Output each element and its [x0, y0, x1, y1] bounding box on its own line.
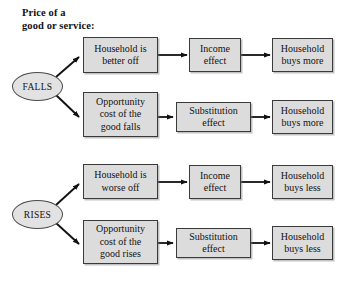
arrow-rises-to-opportunity-cost-rises	[56, 223, 79, 244]
node-row3-stage1: Household is worse off	[83, 164, 158, 199]
node-row3-stage2: Income effect	[189, 165, 241, 199]
node-row2-stage2: Substitution effect	[176, 102, 251, 132]
node-row3-stage3: Household buys less	[272, 165, 333, 199]
node-row1-stage3: Household buys more	[272, 38, 333, 72]
node-row2-stage3: Household buys more	[272, 100, 333, 134]
node-row1-stage2: Income effect	[189, 38, 241, 72]
node-row4-stage1: Opportunity cost of the good rises	[83, 220, 158, 264]
node-row4-stage3: Household buys less	[272, 226, 333, 260]
node-row2-stage1: Opportunity cost of the good falls	[83, 92, 158, 137]
diagram-canvas: Price of a good or service: FALLS RISES …	[0, 0, 354, 284]
arrow-falls-to-household-better-off	[56, 57, 79, 77]
node-row1-stage1: Household is better off	[83, 37, 158, 73]
node-row4-stage2: Substitution effect	[176, 228, 251, 258]
arrow-falls-to-opportunity-cost-falls	[56, 95, 79, 117]
source-node-rises: RISES	[12, 200, 63, 229]
arrow-rises-to-household-worse-off	[56, 184, 79, 205]
diagram-title: Price of a good or service:	[22, 6, 95, 32]
source-node-falls: FALLS	[12, 72, 63, 101]
